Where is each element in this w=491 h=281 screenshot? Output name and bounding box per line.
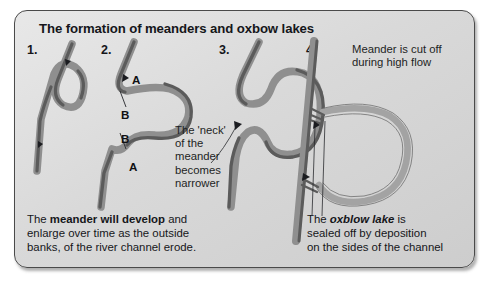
caption-left-line-2: enlarge over time as the outside [27, 227, 253, 241]
caption-right-part1: The [307, 213, 330, 225]
caption-left-line-1: The meander will develop and [27, 213, 253, 227]
caption-right: The oxblow lake is sealed off by deposit… [307, 213, 475, 254]
caption-right-line-2: sealed off by deposition [307, 227, 475, 241]
note-neck-line-3: meander [175, 150, 226, 163]
meander-formation-figure: The formation of meanders and oxbow lake… [0, 0, 491, 281]
note-neck-line-2: of the [175, 137, 226, 150]
note-neck-line-5: narrower [175, 177, 226, 190]
caption-left-bold: meander will develop [50, 213, 165, 225]
diagram-panel: The formation of meanders and oxbow lake… [14, 10, 475, 268]
stage-1-drawing [37, 44, 84, 171]
label-b-top: B [121, 108, 129, 121]
label-a-bottom: A [129, 160, 137, 173]
note-cutoff-line-2: during high flow [352, 56, 442, 69]
note-neck-line-1: The 'neck' [175, 124, 226, 137]
caption-right-part2: is [394, 213, 405, 225]
caption-left-line-3: banks, of the river channel erode. [27, 241, 253, 255]
caption-right-bold-italic: oxblow lake [330, 213, 395, 225]
caption-right-line-3: on the sides of the channel [307, 241, 475, 255]
caption-right-line-1: The oxblow lake is [307, 213, 475, 227]
caption-left-part1: The [27, 213, 50, 225]
caption-left: The meander will develop and enlarge ove… [27, 213, 253, 254]
caption-left-part2: and [165, 213, 187, 225]
note-neck-line-4: becomes [175, 164, 226, 177]
note-cutoff-line-1: Meander is cut off [352, 43, 442, 56]
label-b-bottom: B [121, 132, 129, 145]
note-neck: The 'neck' of the meander becomes narrow… [175, 124, 226, 190]
note-cutoff: Meander is cut off during high flow [352, 43, 442, 69]
label-a-top: A [132, 73, 140, 86]
